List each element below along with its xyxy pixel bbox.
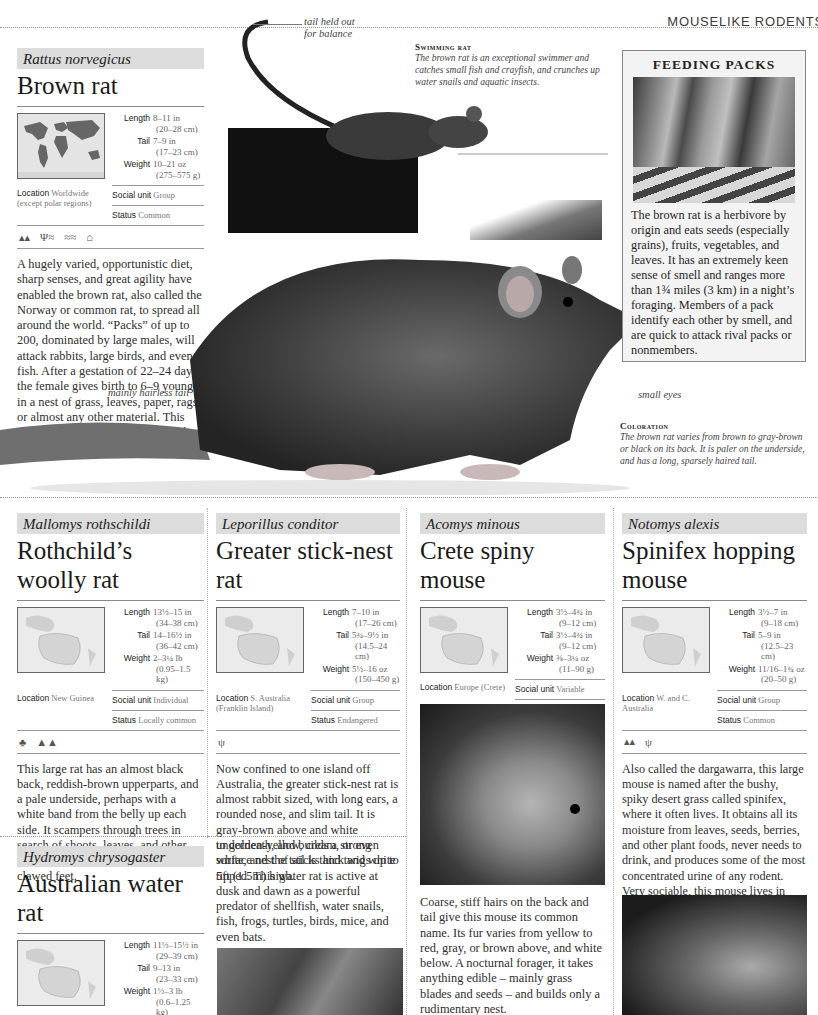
weight-label: Weight [308,664,352,675]
length-metric: (17–26 cm) [308,618,400,629]
tail-metric: (36–42 cm) [109,641,204,652]
tail-label: Tail [308,630,352,641]
latin-name: Rattus norvegicus [17,48,204,69]
status: Status Locally common [112,710,204,730]
measurements: Length13½–15 in (34–38 cm) Tail14–16½ in… [105,607,204,687]
latin-name: Notomys alexis [622,513,807,534]
social-unit: Social unit Individual [112,690,204,710]
social-unit: Social unit Group [717,690,807,710]
stats-block: Length11½–15½ in (29–39 cm) Tail9–13 in … [17,934,204,1015]
location: Location W. and C. Australia [622,690,717,730]
measurements: Length8–11 in (20–28 cm) Tail7–9 in (17–… [105,113,204,182]
common-name: Brown rat [17,69,204,107]
range-map [17,607,105,673]
range-map [622,607,710,673]
common-name: Spinifex hopping mouse [622,534,807,601]
weight-metric: (275–575 g) [109,170,204,181]
common-name: Greater stick-nest rat [216,534,400,601]
section-divider [0,497,818,498]
hairless-tail-callout: mainly hairless tail [108,387,189,399]
social-unit: Social unit Group [311,690,400,710]
caption-text: The brown rat varies from brown to gray-… [620,431,810,467]
column-divider-h [208,836,406,837]
habitat-icons: ψ [216,730,400,754]
tail-metric: (12.5–23 cm) [714,641,807,662]
tail-metric: (9–12 cm) [512,641,605,652]
region-map-icon [623,608,710,673]
range-map [420,607,508,673]
status-value: Endangered [337,715,378,725]
social-unit-value: Variable [556,684,584,694]
weight-label: Weight [109,653,153,664]
weight-value: 10–21 oz [153,159,204,170]
social-unit: Social unit Variable [515,679,605,699]
forest-icon: ♣ [19,736,26,748]
stats-block: Length3½–7 in (9–18 cm) Tail5–9 in (12.5… [622,601,807,687]
panel-title: FEEDING PACKS [623,57,805,73]
measurements: Length11½–15½ in (29–39 cm) Tail9–13 in … [105,940,204,1015]
brown-rat-illustration [0,240,650,495]
location-label: Location [17,188,49,198]
length-metric: (9–18 cm) [714,618,807,629]
tail-label: Tail [109,963,153,974]
social-unit-value: Individual [153,695,188,705]
habitat-icons: ♣▲▲ [17,730,204,754]
weight-metric: (11–90 g) [512,664,605,675]
habitat-icons: ▴▴ψ [622,730,807,754]
measurements: Length7–10 in (17–26 cm) Tail5¾–9½ in (1… [304,607,400,687]
measurements: Length3½–7 in (9–18 cm) Tail5–9 in (12.5… [710,607,807,687]
length-label: Length [109,607,153,618]
column-divider [613,508,614,1015]
water-rat-photo [217,948,403,1015]
tail-label: Tail [714,630,758,641]
measurements: Length3½–4¾ in (9–12 cm) Tail3½–4¾ in (9… [508,607,605,676]
weight-metric: (150–450 g) [308,674,400,685]
length-label: Length [714,607,758,618]
region-map-icon [18,941,105,1006]
status-value: Locally common [138,715,196,725]
social-unit-value: Group [352,695,374,705]
weight-value: ⅜–3¼ oz [556,653,605,664]
latin-name: Leporillus conditor [216,513,400,534]
tail-label: Tail [512,630,556,641]
tail-value: 14–16½ in [153,630,204,641]
range-map [216,607,304,673]
tail-metric: (23–33 cm) [109,974,204,985]
range-map [17,113,105,179]
tail-label: Tail [109,136,153,147]
stats-block: Length3½–4¾ in (9–12 cm) Tail3½–4¾ in (9… [420,601,605,676]
common-name: Rothchild’s woolly rat [17,534,204,601]
tail-value: 9–13 in [153,963,204,974]
tail-label: Tail [109,630,153,641]
tail-value: 7–9 in [153,136,204,147]
swimming-rat-caption: Swimming rat The brown rat is an excepti… [415,42,605,88]
caption-title: Swimming rat [415,42,605,52]
eye [570,804,580,814]
region-map-icon [421,608,508,673]
weight-metric: (20–50 g) [714,674,807,685]
length-label: Length [512,607,556,618]
stats-block: Length7–10 in (17–26 cm) Tail5¾–9½ in (1… [216,601,400,687]
range-map [17,940,105,1006]
tail-value: 5–9 in [758,630,807,641]
social-unit-value: Group [153,190,175,200]
spinifex-hopping-mouse-photo [622,895,807,1015]
tail-callout-leader [252,24,302,25]
weight-label: Weight [714,664,758,675]
weight-label: Weight [512,653,556,664]
region-map-icon [217,608,304,673]
location: Location New Guinea [17,690,112,730]
latin-name: Mallomys rothschildi [17,513,204,534]
common-name: Crete spiny mouse [420,534,605,601]
latin-name: Acomys minous [420,513,605,534]
info-block: Location W. and C. Australia Social unit… [622,690,807,730]
length-value: 7–10 in [352,607,400,618]
desert-icon: ψ [645,736,652,748]
status: Status Common [717,710,807,730]
tail-balance-callout: tail held out for balance [304,16,355,40]
species-profile: Hydromys chrysogaster Australian water r… [17,846,204,1015]
info-block: Location S. Australia (Franklin Island) … [216,690,400,730]
weight-value: 2–3¼ lb [153,653,204,664]
weight-label: Weight [109,986,153,997]
latin-name: Hydromys chrysogaster [17,846,204,867]
